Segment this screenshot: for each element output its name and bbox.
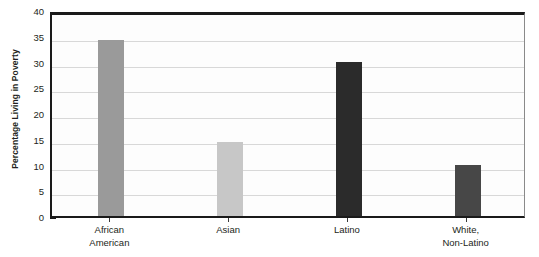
y-tick-label: 40 [22, 7, 44, 17]
x-axis-labels: AfricanAmericanAsianLatinoWhite,Non-Lati… [50, 218, 525, 257]
bars-group [52, 15, 524, 216]
y-tick-label: 10 [22, 162, 44, 172]
y-tick-label: 15 [22, 136, 44, 146]
x-tick-label-line: Asian [216, 224, 240, 237]
y-tick-label: 20 [22, 110, 44, 120]
x-tick-label-line: African [89, 224, 129, 237]
y-tick-label: 30 [22, 59, 44, 69]
x-tick-label: White,Non-Latino [442, 224, 488, 249]
x-tick-mark [347, 218, 348, 222]
y-tick-label: 35 [22, 33, 44, 43]
bar [98, 40, 124, 216]
x-tick-mark [466, 218, 467, 222]
bar [217, 142, 243, 216]
x-tick-label-line: Latino [334, 224, 360, 237]
y-tick-label: 5 [22, 188, 44, 198]
x-tick-mark [109, 218, 110, 222]
y-tick-label: 25 [22, 85, 44, 95]
y-axis-ticks: 0510152025303540 [22, 12, 44, 218]
y-tick-label: 0 [22, 213, 44, 223]
x-tick-label: AfricanAmerican [89, 224, 129, 249]
bar [336, 62, 362, 217]
plot-area [50, 12, 525, 218]
x-tick-label-line: American [89, 237, 129, 250]
x-tick-label-line: Non-Latino [442, 237, 488, 250]
x-tick-label: Asian [216, 224, 240, 237]
x-tick-label: Latino [334, 224, 360, 237]
y-axis-title: Percentage Living in Poverty [10, 4, 20, 214]
x-tick-mark [228, 218, 229, 222]
x-tick-label-line: White, [442, 224, 488, 237]
bar-chart-figure: Percentage Living in Poverty 05101520253… [0, 0, 539, 257]
bar [455, 165, 481, 217]
